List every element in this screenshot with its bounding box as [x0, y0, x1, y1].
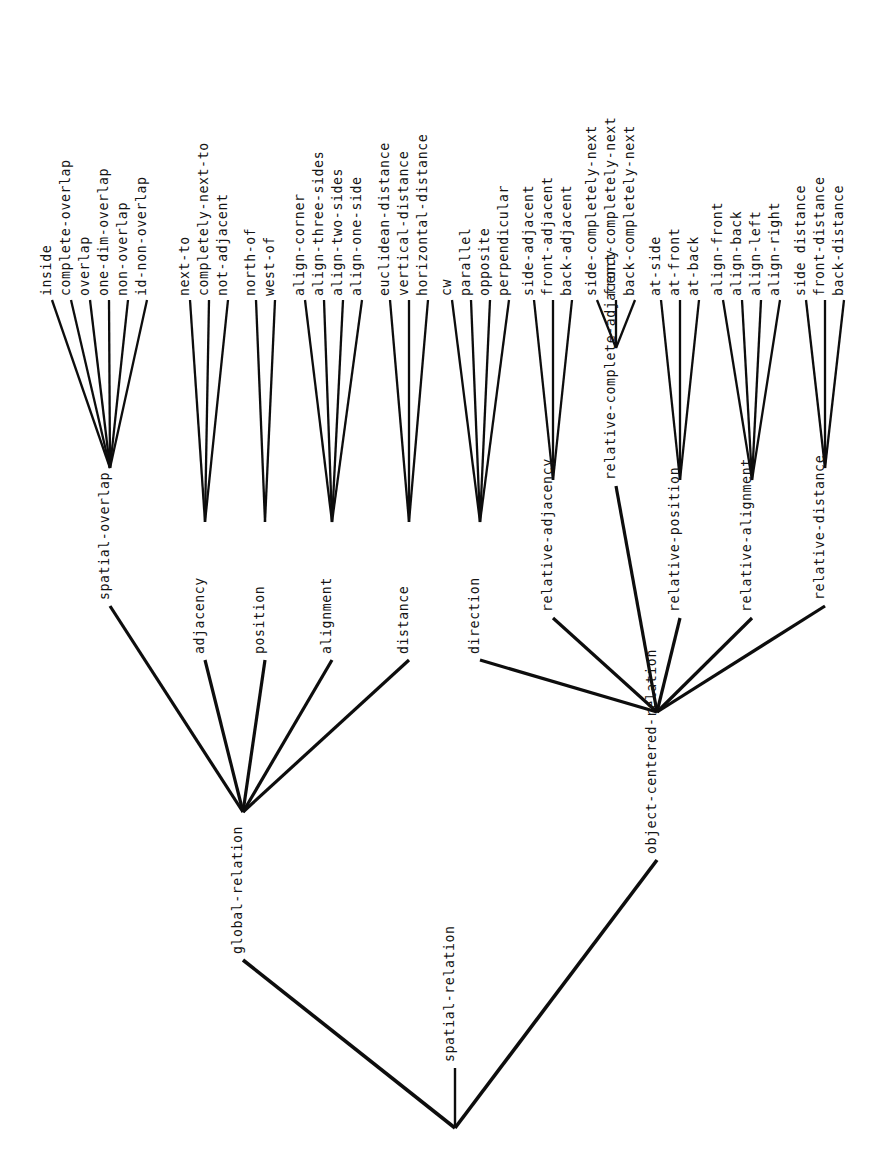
mid-label-distance: distance — [396, 586, 411, 654]
leaf-label-overlap: overlap — [77, 236, 92, 296]
leaf-label-north-of: north-of — [243, 228, 258, 296]
leaf-label-complete-overlap: complete-overlap — [58, 159, 73, 296]
edge-mid-distance — [243, 660, 409, 812]
mid-label-relative-position: relative-position — [667, 467, 682, 612]
leaf-label-back-completely-next: back-completely-next — [622, 125, 637, 296]
leaf-label-align-three-sides: align-three-sides — [311, 151, 326, 296]
edge-leaf-28 — [661, 300, 680, 480]
leaf-label-side-completely-next: side-completely-next — [584, 125, 599, 296]
leaf-label-vertical-distance: vertical-distance — [396, 151, 411, 296]
mid-label-spatial-overlap: spatial-overlap — [97, 472, 112, 600]
mid-label-adjacency: adjacency — [192, 577, 207, 654]
edge-mid-relative-distance — [657, 606, 825, 712]
leaf-label-back-adjacent: back-adjacent — [559, 185, 574, 296]
edge-mid-position — [243, 660, 265, 812]
edge-leaf-27 — [616, 300, 635, 348]
edge-leaf-0 — [52, 300, 110, 468]
leaf-label-non-overlap: non-overlap — [115, 202, 130, 296]
edge-leaf-6 — [190, 300, 205, 522]
edge-mid-relative-alignment — [657, 618, 752, 712]
leaf-label-side-adjacent: side-adjacent — [521, 185, 536, 296]
edge-leaf-17 — [409, 300, 428, 522]
edge-leaf-37 — [825, 300, 844, 468]
leaf-label-align-front: align-front — [710, 202, 725, 296]
edge-leaf-24 — [553, 300, 572, 480]
leaf-label-at-back: at-back — [686, 236, 701, 296]
edge-leaf-3 — [109, 300, 110, 468]
edge-leaf-22 — [534, 300, 553, 480]
leaf-label-west-of: west-of — [262, 236, 277, 296]
mid-label-relative-adjacency: relative-adjacency — [540, 458, 555, 612]
leaf-label-front-adjacent: front-adjacent — [540, 176, 555, 296]
leaf-label-at-front: at-front — [667, 228, 682, 296]
leaf-label-perpendicular: perpendicular — [496, 185, 511, 296]
mid-label-relative-alignment: relative-alignment — [739, 458, 754, 612]
taxonomy-tree-diagram: insidecomplete-overlapoverlapone-dim-ove… — [0, 0, 880, 1166]
leaf-label-align-corner: align-corner — [292, 194, 307, 296]
edge-mid-adjacency — [205, 660, 243, 812]
top-label-object-centered-relation: object-centered-relation — [644, 649, 659, 854]
leaf-label-align-two-sides: align-two-sides — [330, 168, 345, 296]
edge-leaf-35 — [806, 300, 825, 468]
leaf-label-front-distance: front-distance — [812, 176, 827, 296]
leaf-label-not-adjacent: not-adjacent — [215, 194, 230, 296]
leaf-label-align-back: align-back — [729, 211, 744, 296]
leaf-label-align-right: align-right — [767, 202, 782, 296]
leaf-label-cw: cw — [439, 279, 454, 296]
edge-leaf-30 — [680, 300, 699, 480]
mid-label-relative-complete-adjacency: relative-complete-adjacency — [603, 249, 618, 480]
mid-label-direction: direction — [467, 577, 482, 654]
top-label-global-relation: global-relation — [230, 826, 245, 954]
leaf-label-opposite: opposite — [477, 228, 492, 296]
edge-leaf-15 — [390, 300, 409, 522]
leaf-label-align-one-side: align-one-side — [349, 176, 364, 296]
leaf-label-inside: inside — [39, 245, 54, 296]
edge-leaf-5 — [110, 300, 147, 468]
edge-l1-global-relation — [243, 960, 455, 1128]
leaf-label-one-dim-overlap: one-dim-overlap — [96, 168, 111, 296]
leaf-label-horizontal-distance: horizontal-distance — [415, 134, 430, 296]
leaf-label-parallel: parallel — [458, 228, 473, 296]
edge-leaf-2 — [90, 300, 110, 468]
leaf-label-at-side: at-side — [648, 236, 663, 296]
edge-mid-alignment — [243, 660, 332, 812]
edge-l1-object-centered-relation — [455, 860, 657, 1128]
mid-label-position: position — [252, 586, 267, 654]
tree-svg-canvas: insidecomplete-overlapoverlapone-dim-ove… — [0, 0, 880, 1166]
leaf-label-next-to: next-to — [177, 236, 192, 296]
mid-label-alignment: alignment — [319, 577, 334, 654]
leaf-label-completely-next-to: completely-next-to — [196, 142, 211, 296]
mid-label-relative-distance: relative-distance — [812, 455, 827, 600]
edge-leaf-1 — [71, 300, 110, 468]
leaf-label-euclidean-distance: euclidean-distance — [377, 142, 392, 296]
leaf-label-id-non-overlap: id-non-overlap — [134, 176, 149, 296]
edge-leaf-4 — [110, 300, 128, 468]
root-label-spatial-relation: spatial-relation — [442, 925, 457, 1062]
labels-layer: insidecomplete-overlapoverlapone-dim-ove… — [39, 117, 846, 1062]
leaf-label-align-left: align-left — [748, 211, 763, 296]
leaf-label-back-distance: back-distance — [831, 185, 846, 296]
leaf-label-side distance: side distance — [793, 185, 808, 296]
edge-leaf-9 — [256, 300, 265, 522]
edge-mid-spatial-overlap — [110, 606, 243, 812]
edge-leaf-10 — [265, 300, 275, 522]
